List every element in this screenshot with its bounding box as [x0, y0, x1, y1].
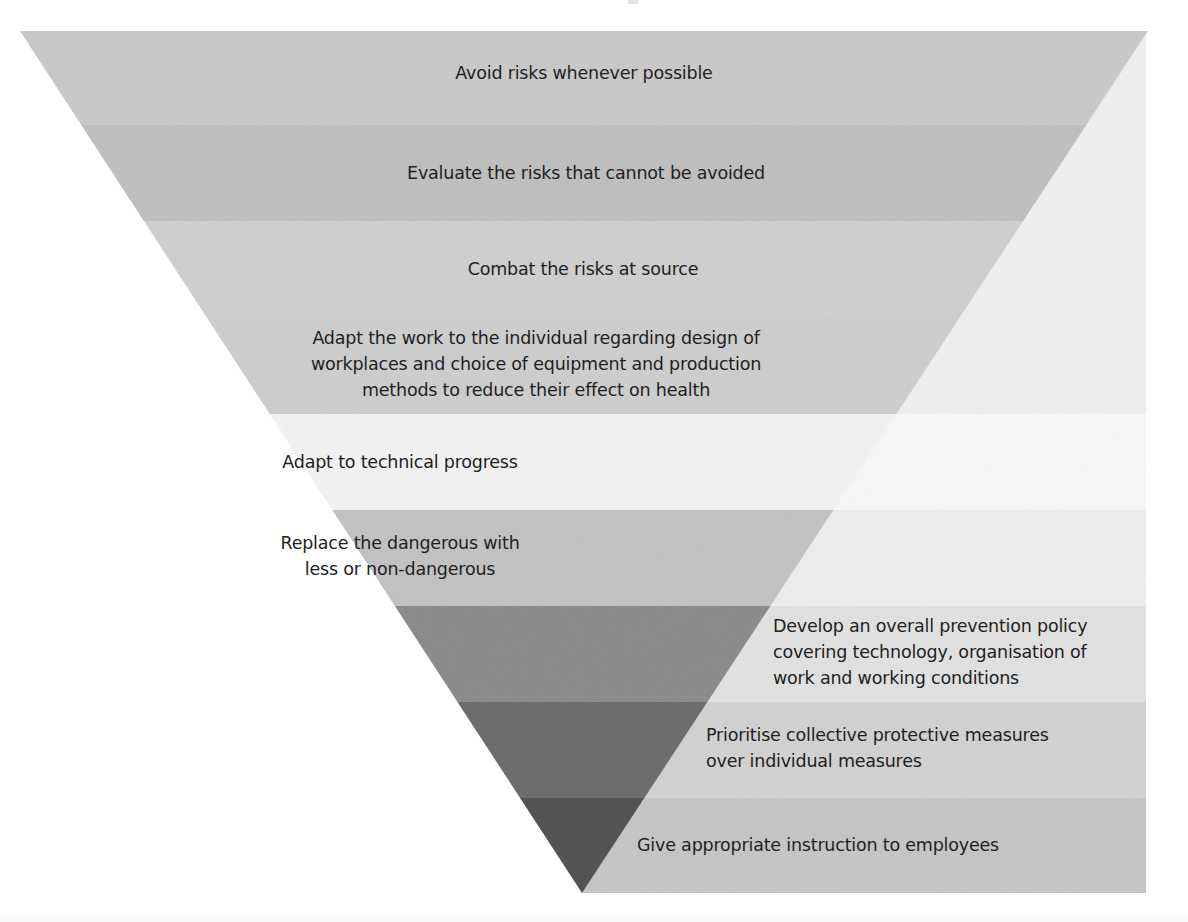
- panel-band-6: [770, 510, 1146, 606]
- cropped-caption-remnant: [0, 912, 1188, 922]
- level-label-9: Give appropriate instruction to employee…: [637, 832, 999, 858]
- level-label-2: Evaluate the risks that cannot be avoide…: [407, 160, 765, 186]
- level-label-1: Avoid risks whenever possible: [455, 60, 712, 86]
- level-label-4: Adapt the work to the individual regardi…: [311, 325, 761, 403]
- prevention-hierarchy-diagram: [0, 0, 1188, 922]
- level-label-7: Develop an overall prevention policy cov…: [773, 613, 1087, 691]
- level-label-8: Prioritise collective protective measure…: [706, 722, 1049, 774]
- level-label-6: Replace the dangerous with less or non-d…: [280, 530, 519, 582]
- pyramid-level-7: [395, 606, 771, 702]
- level-label-5: Adapt to technical progress: [282, 449, 517, 475]
- level-label-3: Combat the risks at source: [468, 256, 699, 282]
